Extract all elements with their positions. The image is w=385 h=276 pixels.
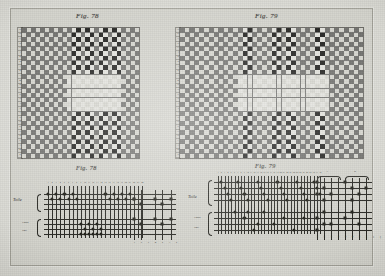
weave-cell (330, 112, 334, 116)
weave-cell (349, 75, 353, 79)
weave-cell (228, 149, 232, 153)
weave-cell (243, 112, 247, 116)
engraving-sheet: Fig. 78 Fig. 79 abcdefghiklmnopqrstuabcd… (10, 8, 373, 266)
weave-cell (330, 140, 334, 144)
weave-cell (277, 102, 281, 106)
weave-cell (315, 98, 319, 102)
weave-cell (330, 37, 334, 41)
weave-cell (354, 47, 358, 51)
tie-up-mark (358, 223, 361, 226)
weave-cell (267, 47, 271, 51)
weave-cell (199, 47, 203, 51)
weave-cell (339, 84, 343, 88)
weave-cell (248, 112, 252, 116)
weave-cell (195, 144, 199, 148)
weave-cell (325, 84, 329, 88)
weave-cell (272, 126, 276, 130)
weave-cell (199, 130, 203, 134)
weave-cell (219, 93, 223, 97)
weave-cell (354, 126, 358, 130)
weave-cell (282, 98, 286, 102)
weave-cell (291, 47, 295, 51)
weave-cell (315, 56, 319, 60)
weave-cell (282, 42, 286, 46)
weave-cell (291, 107, 295, 111)
cord-vertical-line (264, 176, 265, 234)
cord-knot (220, 180, 223, 183)
cord-number: 4 (60, 181, 61, 183)
weave-cell (185, 51, 189, 55)
weave-cell (349, 144, 353, 148)
weave-cell (344, 42, 348, 46)
weave-cell (325, 116, 329, 120)
cord-number: 24 (141, 181, 143, 183)
cord-knot (96, 232, 99, 235)
cord-vertical-line (221, 176, 222, 234)
weave-cell (286, 102, 290, 106)
weave-cell (335, 89, 339, 93)
weave-cell (253, 107, 257, 111)
weave-cell (282, 61, 286, 65)
weave-cell (219, 149, 223, 153)
cord-vertical-line (244, 176, 245, 234)
weave-cell (325, 37, 329, 41)
cord-number: 20 (280, 171, 282, 173)
weave-cell (233, 130, 237, 134)
weave-cell (267, 42, 271, 46)
weave-cell (257, 126, 261, 130)
weave-cell (233, 154, 237, 158)
weave-cell (180, 135, 184, 139)
weave-cell (209, 121, 213, 125)
cord-number: 2 (221, 171, 222, 173)
weave-cell (135, 93, 139, 97)
weave-cell (359, 47, 363, 51)
weave-cell (228, 140, 232, 144)
weave-cell (224, 56, 228, 60)
weave-cell (349, 107, 353, 111)
weave-cell (320, 47, 324, 51)
weave-cell (262, 61, 266, 65)
weave-cell (325, 140, 329, 144)
weave-cell (354, 89, 358, 93)
weave-cell (233, 107, 237, 111)
weave-cell (286, 47, 290, 51)
weave-cell (286, 56, 290, 60)
cord-knot (296, 180, 299, 183)
tie-up-mark (161, 203, 164, 206)
weave-cell (199, 93, 203, 97)
weave-cell (214, 149, 218, 153)
weave-cell (344, 116, 348, 120)
cord-knot (230, 198, 233, 201)
weave-cell (253, 98, 257, 102)
weave-cell (354, 65, 358, 69)
cord-vertical-line (314, 176, 315, 234)
weave-cell (286, 98, 290, 102)
weave-cell (354, 121, 358, 125)
weave-cell (190, 56, 194, 60)
weave-cell (238, 47, 242, 51)
weave-cell (310, 112, 314, 116)
weave-cell (330, 75, 334, 79)
weave-cell (272, 140, 276, 144)
weave-cell (354, 98, 358, 102)
weave-cell (282, 135, 286, 139)
weave-cell (282, 56, 286, 60)
weave-cell (262, 135, 266, 139)
weave-cell (315, 112, 319, 116)
weave-cell (224, 84, 228, 88)
weave-cell (195, 140, 199, 144)
weave-cell (291, 70, 295, 74)
weave-cell (248, 140, 252, 144)
weave-cell (344, 61, 348, 65)
weave-cell (253, 37, 257, 41)
weave-cell (185, 37, 189, 41)
weave-cell (209, 107, 213, 111)
weave-cell (204, 144, 208, 148)
weave-cell (272, 121, 276, 125)
weave-cell (330, 135, 334, 139)
weave-cell (195, 98, 199, 102)
weave-cell (339, 79, 343, 83)
weave-cell (291, 42, 295, 46)
weave-cell (325, 75, 329, 79)
weave-cell (190, 154, 194, 158)
